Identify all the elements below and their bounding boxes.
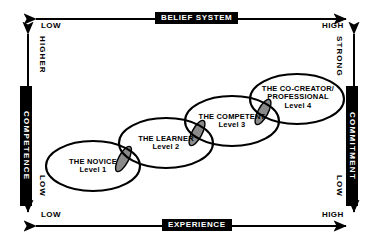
commitment-strong-label: STRONG (335, 36, 343, 77)
competence-commitment-diagram: BELIEF SYSTEM EXPERIENCE COMPETENCE COMM… (0, 0, 382, 245)
competence-low-label: LOW (38, 175, 46, 197)
stage-ellipse-cocreator (250, 74, 344, 124)
belief-system-high-label: HIGH (322, 22, 344, 30)
experience-high-label: HIGH (322, 211, 344, 219)
stage-ellipse-competent (185, 96, 279, 146)
belief-system-low-label: LOW (41, 22, 61, 30)
belief-system-axis-label: BELIEF SYSTEM (155, 12, 238, 24)
competence-higher-label: HIGHER (38, 36, 46, 74)
diagram-canvas (0, 0, 382, 245)
stage-ellipse-learner (119, 118, 213, 168)
stage-ellipse-novice (46, 141, 140, 191)
experience-low-label: LOW (41, 211, 61, 219)
commitment-axis-label: COMMITMENT (346, 86, 358, 206)
competence-axis-label: COMPETENCE (20, 86, 32, 206)
experience-axis-label: EXPERIENCE (162, 219, 232, 231)
commitment-low-label: LOW (335, 175, 343, 197)
